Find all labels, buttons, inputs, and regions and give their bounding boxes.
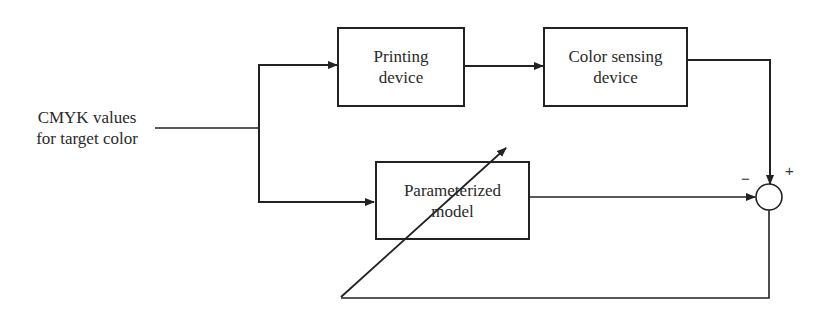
input-label: CMYK values for target color: [12, 107, 162, 149]
input-label-line1: CMYK values: [12, 107, 162, 128]
input-label-line2: for target color: [12, 128, 162, 149]
block-label: device: [374, 67, 429, 88]
block-label: model: [404, 201, 501, 222]
summing-junction: [756, 184, 782, 210]
color-sensing-device-block: Color sensing device: [543, 27, 688, 107]
plus-sign: +: [785, 162, 794, 179]
block-label: device: [569, 67, 663, 88]
minus-sign: −: [741, 170, 750, 187]
printing-device-block: Printing device: [337, 27, 465, 107]
block-label: Color sensing: [569, 46, 663, 67]
block-label: Printing: [374, 46, 429, 67]
block-label: Parameterized: [404, 180, 501, 201]
parameterized-model-block: Parameterized model: [375, 161, 530, 240]
